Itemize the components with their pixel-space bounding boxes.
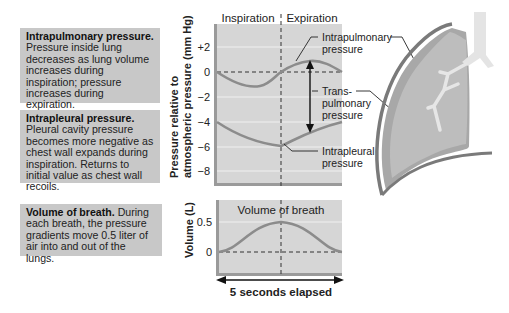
pressure-y-ticks: +2 0 −2 −4 −6 −8 — [197, 41, 210, 177]
pressure-y-label: Pressure relative to atmospheric pressur… — [168, 15, 193, 178]
tick-minus2: −2 — [197, 91, 210, 103]
svg-text:atmospheric pressure (mm Hg): atmospheric pressure (mm Hg) — [181, 15, 193, 178]
svg-text:pulmonary: pulmonary — [322, 97, 372, 109]
tick-0: 0 — [204, 66, 210, 78]
svg-text:0.5: 0.5 — [197, 216, 212, 228]
time-axis-arrow — [216, 276, 344, 284]
tick-minus8: −8 — [197, 165, 210, 177]
svg-text:pressure: pressure — [322, 109, 363, 121]
tick-minus4: −4 — [197, 116, 210, 128]
svg-text:Pressure relative to: Pressure relative to — [168, 76, 180, 178]
svg-text:0: 0 — [206, 246, 212, 258]
inspiration-label: Inspiration — [221, 12, 274, 24]
expiration-label: Expiration — [286, 12, 337, 24]
tick-minus6: −6 — [197, 141, 210, 153]
volume-y-ticks: 0.5 0 — [197, 216, 212, 258]
volume-y-label: Volume (L) — [183, 202, 195, 258]
transpulmonary-callout: Trans- — [322, 85, 352, 97]
pressure-diagram: +2 0 −2 −4 −6 −8 Pressure relative to at… — [0, 0, 509, 313]
volume-chart-title: Volume of breath — [238, 204, 325, 216]
svg-text:pressure: pressure — [322, 43, 363, 55]
svg-text:pressure: pressure — [322, 157, 363, 169]
x-axis-label: 5 seconds elapsed — [230, 286, 332, 298]
tick-plus2: +2 — [197, 41, 210, 53]
intrapleural-callout: Intrapleural — [322, 145, 375, 157]
lung-illustration — [377, 12, 494, 195]
intrapulmonary-callout: Intrapulmonary — [322, 31, 393, 43]
